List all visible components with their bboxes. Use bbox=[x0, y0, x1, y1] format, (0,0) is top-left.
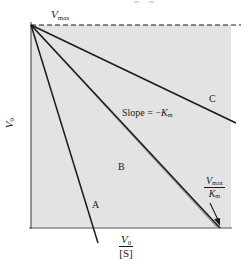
ratio-num-sub: max bbox=[212, 179, 223, 186]
curve-label-c: C bbox=[209, 94, 216, 104]
curve-label-b: B bbox=[118, 162, 125, 172]
x-axis-label-num-sub: 0 bbox=[128, 239, 131, 246]
vmax-label: Vmax bbox=[51, 9, 69, 21]
slope-label-sub: m bbox=[168, 111, 173, 118]
y-axis-label: V0 bbox=[3, 104, 17, 144]
plot-area-background bbox=[31, 25, 231, 228]
curve-label-a: A bbox=[92, 200, 99, 210]
vmax-label-sub: max bbox=[58, 14, 70, 21]
x-axis-label: V0 [S] bbox=[103, 234, 149, 259]
vmax-label-var: V bbox=[51, 8, 58, 20]
ratio-den-sub: m bbox=[215, 192, 220, 199]
vmax-over-km-label: Vmax Km bbox=[204, 176, 225, 199]
slope-label: Slope = −Km bbox=[122, 108, 173, 119]
crop-mark-right bbox=[149, 1, 154, 3]
y-axis-label-var: V bbox=[3, 122, 15, 129]
crop-mark-left bbox=[134, 1, 139, 3]
slope-label-text: Slope = − bbox=[122, 107, 161, 118]
slope-label-var: K bbox=[161, 107, 168, 118]
y-axis-label-sub: 0 bbox=[8, 118, 15, 121]
x-axis-label-num-var: V bbox=[121, 233, 128, 245]
x-axis-label-den: [S] bbox=[119, 247, 133, 259]
